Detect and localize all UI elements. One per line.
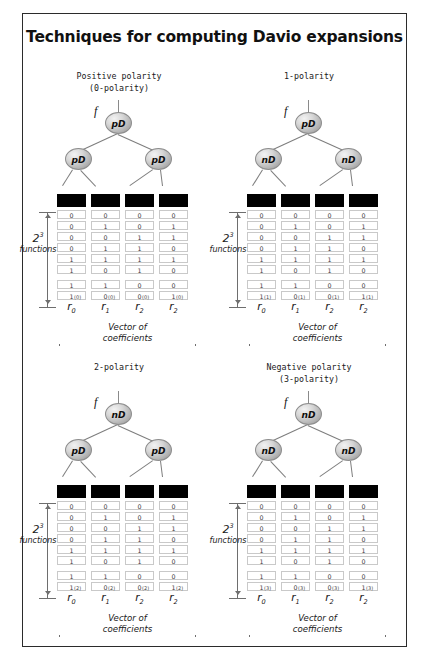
coefficient-label: (1)r0	[247, 295, 276, 315]
tree-node-r: pD	[145, 439, 172, 461]
table-cell: 1	[349, 221, 378, 230]
table-cell: 1	[125, 523, 154, 532]
panel-heading-line1: 2-polarity	[44, 361, 194, 373]
column-header-block	[159, 485, 188, 498]
table-cell: 0	[247, 210, 276, 219]
table-cell: 1	[281, 254, 310, 263]
brace-arrow-up	[235, 505, 241, 509]
table-cell: 1	[91, 221, 120, 230]
coefficient-label: (1)r1	[281, 295, 310, 315]
function-symbol: f	[284, 395, 287, 410]
table-cell: 0	[247, 534, 276, 543]
table-cell: 0	[57, 243, 86, 252]
coefficient-column: 01011010	[91, 485, 120, 593]
table-cell: 1	[281, 512, 310, 521]
table-cell: 0	[281, 265, 310, 274]
table-cell: 0	[247, 221, 276, 230]
brace-arrow-up	[235, 214, 241, 218]
coefficient-label: (3)r0	[247, 586, 276, 606]
panel-heading: 1-polarity	[234, 70, 384, 96]
table-cell: 0	[349, 571, 378, 580]
table-cell: 1	[91, 280, 120, 289]
brace-tick-bottom	[229, 307, 246, 308]
coefficient-labels: (3)r0(3)r1(3)r2(3)r2	[247, 586, 378, 606]
vector-of-coefficients-label: Vector ofcoefficients	[57, 322, 198, 344]
table-cell: 0	[125, 571, 154, 580]
panel-1-polarity: 1-polarityfpDnDnD23functions000011110101…	[213, 70, 405, 360]
brace-arrow-down	[235, 300, 241, 304]
coefficient-columns: 00001111010110100011110001101001	[57, 194, 188, 302]
vector-label-line2: coefficients	[249, 333, 386, 344]
table-cell: 0	[57, 523, 86, 532]
coefficient-label: (1)r2	[315, 295, 344, 315]
brace-arrow-up	[45, 214, 51, 218]
table-cell: 1	[57, 265, 86, 274]
coefficient-name: r0	[57, 300, 86, 315]
table-cell: 0	[315, 210, 344, 219]
table-cell: 0	[315, 221, 344, 230]
coefficient-table-wrap: 23functions00001111010110100011110001101…	[213, 194, 405, 334]
column-header-block	[57, 485, 86, 498]
coefficient-labels: (1)r0(1)r1(1)r2(1)r2	[247, 295, 378, 315]
coefficient-label: (3)r1	[281, 586, 310, 606]
coefficient-column: 00111100	[315, 485, 344, 593]
table-cell: 0	[247, 232, 276, 241]
table-cell: 0	[91, 232, 120, 241]
brace-arrow-up	[45, 505, 51, 509]
tree-edge	[252, 461, 263, 477]
table-cell: 1	[349, 545, 378, 554]
table-cell: 1	[281, 280, 310, 289]
column-header-block	[57, 194, 86, 207]
panel-grid: Positive polarity(0-polarity)fpDpDpD23fu…	[23, 46, 406, 626]
table-cell: 1	[125, 254, 154, 263]
vector-label-line1: Vector of	[249, 613, 386, 624]
coefficient-name: r1	[281, 300, 310, 315]
table-cell: 0	[91, 556, 120, 565]
table-cell: 0	[57, 501, 86, 510]
tree-edge	[270, 170, 286, 187]
table-cell: 0	[349, 534, 378, 543]
table-cell: 1	[281, 221, 310, 230]
table-cell: 1	[91, 512, 120, 521]
brace-tick-bottom	[229, 598, 246, 599]
brace-line	[47, 504, 48, 598]
column-header-block	[247, 194, 276, 207]
coefficient-label: (0)r2	[159, 295, 188, 315]
table-cell: 0	[91, 265, 120, 274]
table-cell: 1	[125, 265, 154, 274]
tree-node-l: nD	[255, 439, 282, 461]
coefficient-label: (3)r2	[315, 586, 344, 606]
coefficient-name: r0	[247, 300, 276, 315]
table-cell: 1	[125, 556, 154, 565]
tree-node-l: nD	[255, 148, 282, 170]
table-cell: 0	[125, 280, 154, 289]
tree-node-root: nD	[105, 403, 132, 425]
brace-line	[237, 213, 238, 307]
brace-arrow-down	[45, 591, 51, 595]
tree-node-root: pD	[295, 112, 322, 134]
table-cell: 0	[349, 501, 378, 510]
table-cell: 0	[349, 556, 378, 565]
column-header-block	[247, 485, 276, 498]
coefficient-table-wrap: 23functions00001111010110100011110001101…	[23, 194, 215, 334]
coefficient-column: 01101001	[159, 485, 188, 593]
coefficient-labels: (2)r0(2)r1(2)r2(2)r2	[57, 586, 188, 606]
table-cell: 1	[159, 523, 188, 532]
tree-node-r: nD	[335, 439, 362, 461]
coefficient-name: r2	[159, 300, 188, 315]
table-cell: 0	[57, 210, 86, 219]
panel-negative-polarity: Negative polarity(3-polarity)fnDnDnD23fu…	[213, 361, 405, 651]
brace-tick-bottom	[39, 598, 56, 599]
brace-tick-top	[229, 212, 246, 213]
table-cell: 0	[159, 243, 188, 252]
coefficient-column: 00111100	[315, 194, 344, 302]
table-cell: 0	[159, 571, 188, 580]
panel-heading: Negative polarity(3-polarity)	[234, 361, 384, 387]
table-cell: 0	[57, 232, 86, 241]
table-cell: 0	[315, 571, 344, 580]
coefficient-label: (2)r2	[159, 586, 188, 606]
column-header-block	[91, 194, 120, 207]
table-cell: 1	[159, 221, 188, 230]
davio-tree: fpDnDnD	[213, 96, 405, 194]
tree-edge	[80, 461, 96, 478]
